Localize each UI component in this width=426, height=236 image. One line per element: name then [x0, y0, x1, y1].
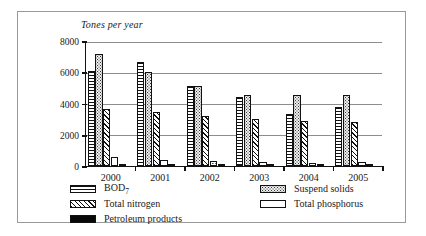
bar-group: 2001	[136, 42, 186, 166]
legend-item-bod[interactable]: BOD7	[70, 182, 182, 195]
bar-tp-2004	[309, 163, 316, 166]
bar-pp-2003	[267, 164, 274, 166]
legend-column-left: BOD7Total nitrogenPetroleum products	[70, 182, 182, 227]
legend-swatch-tp-icon	[260, 200, 286, 208]
y-axis-label: 6000	[60, 68, 79, 78]
bar-bod-2002	[187, 86, 194, 166]
legend-label: Total phosphorus	[294, 198, 363, 209]
legend-item-pp[interactable]: Petroleum products	[70, 212, 182, 225]
bar-tn-2000	[103, 109, 110, 166]
bar-bod-2005	[335, 107, 342, 166]
bar-ss-2002	[194, 86, 201, 166]
y-axis-tick	[82, 166, 87, 168]
legend-swatch-tn-icon	[70, 200, 96, 208]
bar-ss-2004	[293, 95, 300, 166]
bar-pp-2002	[218, 164, 225, 166]
bar-tp-2001	[160, 160, 167, 166]
bar-pp-2005	[366, 164, 373, 166]
legend-item-tn[interactable]: Total nitrogen	[70, 197, 182, 210]
legend-label: Total nitrogen	[104, 198, 160, 209]
bar-ss-2000	[95, 54, 102, 166]
x-axis-tick	[234, 166, 235, 171]
bar-group: 2004	[284, 42, 334, 166]
bar-tn-2001	[153, 112, 160, 166]
bar-bod-2004	[286, 114, 293, 166]
bar-tp-2005	[358, 162, 365, 166]
legend-swatch-ss-icon	[260, 185, 286, 193]
legend-swatch-bod-icon	[70, 185, 96, 193]
bar-ss-2003	[244, 95, 251, 166]
legend-label: BOD7	[104, 182, 129, 196]
bar-pp-2001	[168, 164, 175, 166]
x-axis-tick	[135, 166, 136, 171]
chart-frame: Tones per year 0200040006000800020002001…	[17, 11, 406, 223]
bar-group: 2002	[185, 42, 235, 166]
bar-tn-2003	[252, 119, 259, 166]
legend-item-ss[interactable]: Suspend solids	[260, 182, 363, 195]
legend-swatch-pp-icon	[70, 215, 96, 223]
x-axis-tick	[184, 166, 185, 171]
bar-ss-2005	[343, 95, 350, 166]
bar-bod-2001	[137, 62, 144, 166]
bar-tp-2000	[111, 157, 118, 166]
y-axis-label: 8000	[60, 37, 79, 47]
bar-tp-2003	[259, 162, 266, 166]
y-axis-label: 4000	[60, 100, 79, 110]
legend-item-tp[interactable]: Total phosphorus	[260, 197, 363, 210]
legend-column-right: Suspend solidsTotal phosphorus	[260, 182, 363, 212]
chart-legend: BOD7Total nitrogenPetroleum products Sus…	[70, 182, 400, 222]
y-axis-label: 2000	[60, 131, 79, 141]
bar-group: 2000	[86, 42, 136, 166]
bar-pp-2000	[119, 164, 126, 166]
axis-title: Tones per year	[81, 19, 143, 30]
bar-bod-2003	[236, 97, 243, 166]
x-axis-tick	[283, 166, 284, 171]
bar-ss-2001	[145, 72, 152, 166]
bar-tn-2005	[351, 122, 358, 166]
plot-area: 0200040006000800020002001200220032004200…	[85, 42, 382, 167]
legend-label: Petroleum products	[104, 213, 182, 224]
bar-pp-2004	[317, 164, 324, 166]
x-axis-tick	[382, 166, 383, 171]
bar-tn-2002	[202, 116, 209, 166]
bar-tp-2002	[210, 161, 217, 166]
bar-tn-2004	[301, 121, 308, 166]
bar-bod-2000	[88, 71, 95, 166]
bar-group: 2003	[235, 42, 285, 166]
x-axis-tick	[333, 166, 334, 171]
y-axis-label: 0	[74, 162, 79, 172]
legend-label: Suspend solids	[294, 183, 354, 194]
bar-group: 2005	[334, 42, 384, 166]
